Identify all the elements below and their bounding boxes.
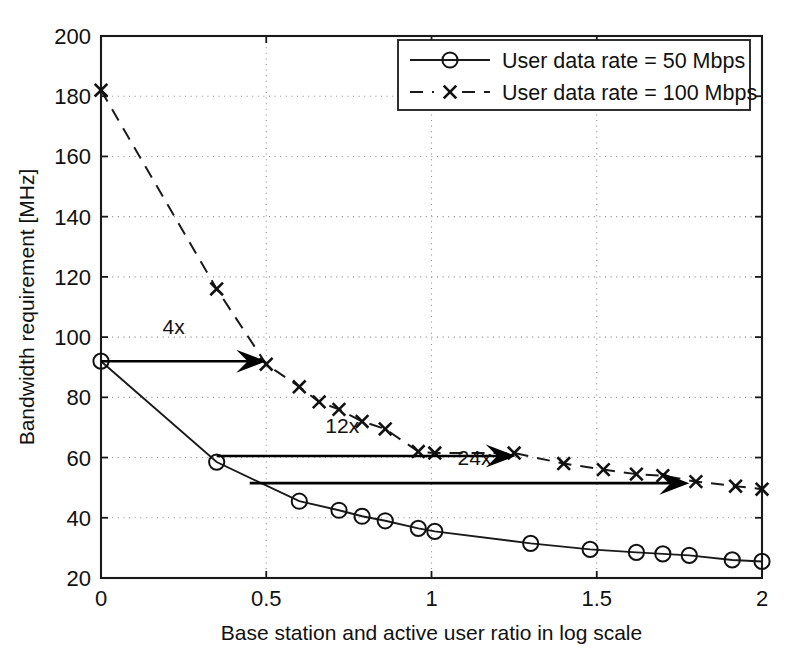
axis-ticks [101, 36, 762, 578]
y-axis-title: Bandwidth requirement [MHz] [15, 169, 38, 446]
series-50mbps [93, 354, 769, 569]
grid-lines [101, 36, 762, 578]
x-axis-title: Base station and active user ratio in lo… [221, 621, 642, 644]
series-polyline [101, 90, 762, 489]
x-axis-tick-label: 0 [95, 586, 107, 611]
y-axis-tick-label: 160 [54, 144, 91, 169]
x-axis-tick-label: 0.5 [251, 586, 282, 611]
y-axis-tick-label: 20 [67, 566, 91, 591]
annotation-4x: 4x [101, 315, 266, 373]
legend-entry-label: User data rate = 50 Mbps [502, 49, 745, 73]
x-axis-tick-label: 1 [425, 586, 437, 611]
annotation-label: 4x [163, 315, 186, 338]
plot-frame [101, 36, 762, 578]
annotation-label: 24x [458, 446, 492, 469]
bandwidth-requirement-chart: 2040608010012014016018020000.511.52 4x12… [0, 0, 791, 662]
x-axis-tick-label: 1.5 [581, 586, 612, 611]
y-axis-tick-label: 120 [54, 265, 91, 290]
data-point-marker-x [313, 396, 326, 409]
legend-entry-label: User data rate = 100 Mbps [502, 81, 757, 105]
plot-area-frame [101, 36, 762, 578]
y-axis-tick-label: 200 [54, 24, 91, 49]
y-axis-tick-label: 180 [54, 84, 91, 109]
y-axis-tick-label: 40 [67, 506, 91, 531]
y-axis-tick-label: 60 [67, 446, 91, 471]
y-axis-tick-label: 80 [67, 385, 91, 410]
series-polyline [101, 361, 762, 561]
data-point-marker-x [210, 283, 223, 296]
annotation-24x: 24x [250, 446, 690, 495]
legend: User data rate = 50 MbpsUser data rate =… [398, 40, 757, 110]
y-axis-tick-label: 140 [54, 205, 91, 230]
x-axis-tick-label: 2 [756, 586, 768, 611]
data-point-marker-x [293, 380, 306, 393]
axis-tick-labels: 2040608010012014016018020000.511.52 [54, 24, 768, 611]
figure-container: 2040608010012014016018020000.511.52 4x12… [0, 0, 791, 662]
y-axis-tick-label: 100 [54, 325, 91, 350]
annotation-label: 12x [325, 414, 359, 437]
data-point-marker-x [379, 423, 392, 436]
